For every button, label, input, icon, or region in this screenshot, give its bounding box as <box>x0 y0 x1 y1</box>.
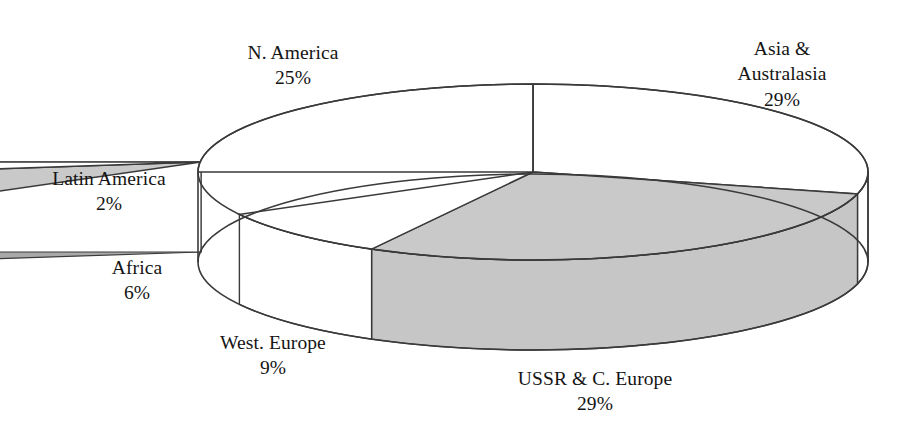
slice-label-n-america: N. America 25% <box>195 40 391 91</box>
slice-label-ussr-c-europe: USSR & C. Europe 29% <box>470 366 720 417</box>
slice-label-west-europe-percent: 9% <box>176 355 370 380</box>
slice-label-africa-name: Africa <box>112 257 162 278</box>
slice-label-latin-america-percent: 2% <box>18 191 200 216</box>
slice-label-n-america-name: N. America <box>248 42 339 63</box>
slice-label-asia-percent: 29% <box>672 87 892 112</box>
slice-label-west-europe-name: West. Europe <box>220 332 326 353</box>
slice-label-n-america-percent: 25% <box>195 65 391 90</box>
slice-label-latin-america-name: Latin America <box>52 168 165 189</box>
slice-label-ussr-percent: 29% <box>470 391 720 416</box>
slice-label-africa-percent: 6% <box>72 280 202 305</box>
pie-chart-figure: N. America 25% Asia & Australasia 29% La… <box>0 0 914 448</box>
slice-label-ussr-name: USSR & C. Europe <box>518 368 672 389</box>
slice-label-asia-name-line2: Australasia <box>672 61 892 86</box>
slice-label-latin-america: Latin America 2% <box>18 166 200 217</box>
slice-top-n-america[interactable] <box>198 84 533 172</box>
slice-label-africa: Africa 6% <box>72 255 202 306</box>
slice-label-asia-name-line1: Asia & <box>754 38 810 59</box>
slice-label-west-europe: West. Europe 9% <box>176 330 370 381</box>
slice-label-asia-australasia: Asia & Australasia 29% <box>672 36 892 112</box>
